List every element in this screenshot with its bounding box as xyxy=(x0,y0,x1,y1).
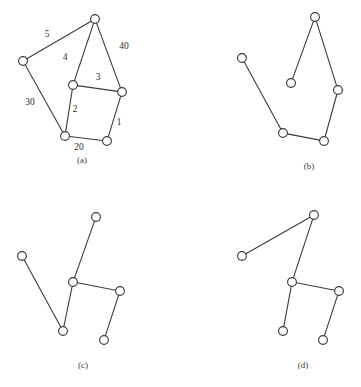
c-node-right xyxy=(116,287,125,296)
d-edge-right-bottomright xyxy=(324,295,337,336)
d-node-top xyxy=(310,211,319,220)
a-node-top xyxy=(91,15,100,24)
c-node-bottom-left xyxy=(59,327,68,336)
c-edge-left-bottomleft xyxy=(24,260,61,327)
a-edge-1-weight-label: 1 xyxy=(117,117,122,127)
b-edge-top-inner xyxy=(293,21,314,79)
c-node-left xyxy=(18,252,27,261)
panel-caption-c: (c) xyxy=(78,360,88,370)
c-edge-center-bottomleft xyxy=(64,286,72,326)
c-node-center xyxy=(69,278,78,287)
c-edge-right-bottomright xyxy=(105,295,118,336)
d-edge-top-center xyxy=(293,219,312,278)
a-edge-4 xyxy=(74,23,93,81)
d-node-bottom-left xyxy=(279,327,288,336)
c-node-top xyxy=(92,213,101,222)
panel-b: (b) xyxy=(238,13,343,171)
b-node-left xyxy=(238,54,247,63)
d-edge-left-top xyxy=(246,217,310,254)
panel-caption-a: (a) xyxy=(77,155,87,165)
d-node-center xyxy=(288,278,297,287)
a-edge-2 xyxy=(66,89,73,131)
b-node-bottom-left xyxy=(279,129,288,138)
panel-caption-b: (b) xyxy=(304,161,315,171)
d-node-bottom-right xyxy=(319,336,328,345)
panel-a: 54043302120(a) xyxy=(19,15,129,165)
a-edge-3 xyxy=(77,86,117,92)
b-node-right xyxy=(334,86,343,95)
a-edge-30-weight-label: 30 xyxy=(25,97,35,107)
a-edge-5 xyxy=(27,21,91,59)
b-edge-left-bottomleft xyxy=(244,62,281,129)
a-edge-3-weight-label: 3 xyxy=(96,72,101,82)
a-node-bottom-right xyxy=(103,137,112,146)
d-node-left xyxy=(238,252,247,261)
a-edge-4-weight-label: 4 xyxy=(63,52,68,62)
b-node-inner xyxy=(287,79,296,88)
a-edge-20 xyxy=(69,137,102,141)
d-edge-center-bottomleft xyxy=(284,286,291,326)
a-edge-40-weight-label: 40 xyxy=(119,41,129,51)
c-edge-top-center xyxy=(74,221,94,278)
panel-caption-d: (d) xyxy=(298,360,309,370)
a-node-mid-right xyxy=(118,88,127,97)
graph-figure: 54043302120(a)(b)(c)(d) xyxy=(0,0,361,387)
a-edge-2-weight-label: 2 xyxy=(73,104,78,114)
b-edge-bottomright-right xyxy=(325,94,337,137)
a-node-mid-left xyxy=(69,81,78,90)
d-node-right xyxy=(335,287,344,296)
b-node-top xyxy=(311,13,320,22)
a-edge-5-weight-label: 5 xyxy=(45,29,50,39)
panel-c: (c) xyxy=(18,213,125,370)
b-edge-bottomleft-bottomright xyxy=(287,134,319,140)
c-node-bottom-right xyxy=(100,336,109,345)
b-edge-top-right xyxy=(316,21,336,86)
d-edge-center-right xyxy=(296,283,334,290)
c-edge-center-right xyxy=(77,283,115,290)
b-node-bottom-right xyxy=(320,137,329,146)
a-edge-20-weight-label: 20 xyxy=(74,142,84,152)
a-node-bottom-left xyxy=(61,132,70,141)
figure-container: 54043302120(a)(b)(c)(d) xyxy=(0,0,361,387)
a-node-left xyxy=(19,57,28,66)
panel-d: (d) xyxy=(238,211,344,370)
